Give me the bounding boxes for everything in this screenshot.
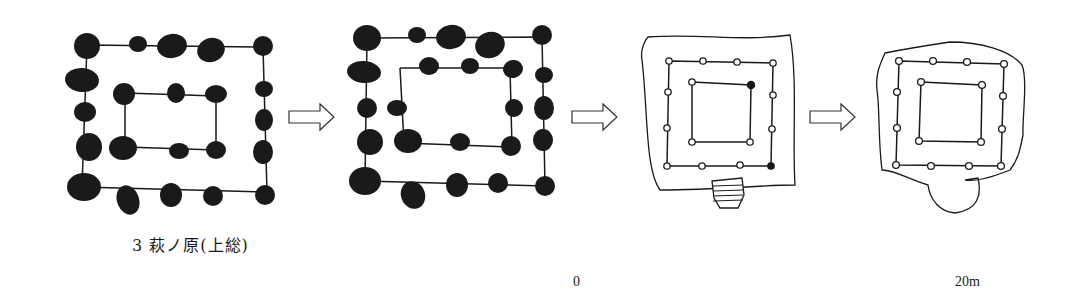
post-hole: [434, 23, 468, 52]
post-hole: [67, 173, 101, 201]
post-hole: [979, 82, 986, 89]
post-hole: [535, 176, 555, 196]
post-hole: [964, 59, 971, 66]
post-hole: [998, 163, 1005, 170]
post-hole: [689, 79, 695, 85]
post-hole: [1000, 93, 1007, 100]
post-hole: [501, 136, 521, 156]
post-hole: [534, 96, 554, 120]
post-hole: [999, 126, 1006, 133]
wall-line: [896, 61, 1004, 166]
figure-caption: 3 萩ノ原(上総): [132, 232, 249, 256]
post-hole: [734, 59, 740, 65]
post-hole: [255, 81, 273, 97]
post-hole: [689, 139, 695, 145]
post-hole: [533, 129, 553, 151]
post-hole: [450, 133, 470, 151]
arrow-icon: [289, 104, 334, 130]
post-hole: [770, 60, 776, 66]
post-hole: [737, 162, 743, 168]
post-hole: [76, 133, 102, 161]
post-hole: [918, 79, 925, 86]
post-hole: [446, 173, 468, 197]
post-hole: [664, 125, 670, 131]
post-hole: [894, 125, 901, 132]
post-hole: [916, 138, 923, 145]
post-hole: [74, 33, 100, 59]
post-hole: [255, 109, 273, 131]
post-hole: [664, 163, 670, 169]
post-hole: [893, 162, 900, 169]
post-hole: [535, 67, 553, 83]
stage-1-plan: [64, 32, 275, 218]
post-hole: [353, 25, 381, 51]
post-hole: [387, 100, 407, 116]
post-hole: [253, 36, 273, 56]
post-hole: [349, 167, 381, 195]
arrow-icon: [810, 104, 855, 130]
wall-line: [919, 82, 982, 142]
post-hole: [978, 139, 985, 146]
post-hole: [129, 36, 147, 52]
step-attachment: [712, 178, 744, 208]
post-hole: [205, 85, 227, 103]
scale-start-label: 0: [573, 274, 580, 290]
post-hole: [666, 58, 672, 64]
post-hole: [894, 89, 901, 96]
wall-line: [692, 82, 751, 142]
post-hole: [206, 141, 226, 159]
post-hole: [896, 58, 903, 65]
post-hole: [109, 136, 137, 160]
post-hole: [488, 173, 508, 193]
post-hole: [357, 98, 377, 118]
post-hole: [471, 28, 508, 63]
post-hole: [532, 25, 552, 45]
post-hole: [169, 143, 189, 159]
post-hole: [419, 57, 439, 75]
post-hole: [747, 81, 754, 88]
post-hole: [768, 163, 774, 169]
wall-line: [667, 61, 773, 166]
arrow-icon: [572, 104, 617, 130]
post-hole: [346, 60, 382, 85]
post-hole: [505, 99, 523, 117]
post-hole: [203, 186, 223, 206]
scale-end-label: 20m: [955, 274, 980, 290]
post-hole: [747, 139, 753, 145]
post-hole: [699, 163, 705, 169]
wall-line: [125, 93, 216, 150]
post-hole: [665, 89, 671, 95]
post-hole: [74, 102, 96, 122]
post-hole: [253, 140, 273, 164]
post-hole: [928, 163, 935, 170]
post-hole: [255, 185, 275, 205]
post-hole: [357, 129, 383, 155]
stage-3-plan: [642, 35, 795, 208]
post-hole: [966, 163, 973, 170]
post-hole: [408, 27, 426, 43]
post-hole: [160, 183, 182, 207]
post-hole: [1001, 61, 1008, 68]
post-hole: [194, 34, 229, 66]
post-hole: [700, 58, 706, 64]
post-hole: [461, 58, 479, 74]
post-hole: [113, 83, 135, 105]
post-hole: [167, 83, 185, 103]
post-hole: [394, 129, 422, 153]
post-hole: [930, 58, 937, 65]
post-hole: [769, 126, 775, 132]
post-hole: [64, 67, 100, 94]
stage-4-plan: [877, 42, 1025, 213]
wall-line: [82, 45, 267, 192]
post-hole: [770, 92, 776, 98]
post-hole: [155, 32, 189, 61]
stage-2-plan: [346, 23, 555, 213]
post-hole: [501, 58, 525, 81]
